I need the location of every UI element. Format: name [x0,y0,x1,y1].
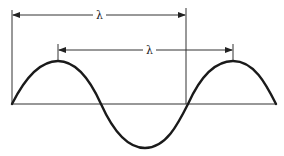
wavelength-diagram: λ λ [0,0,284,156]
wavelength-label-top: λ [96,9,103,22]
wavelength-label-peak: λ [146,44,153,57]
